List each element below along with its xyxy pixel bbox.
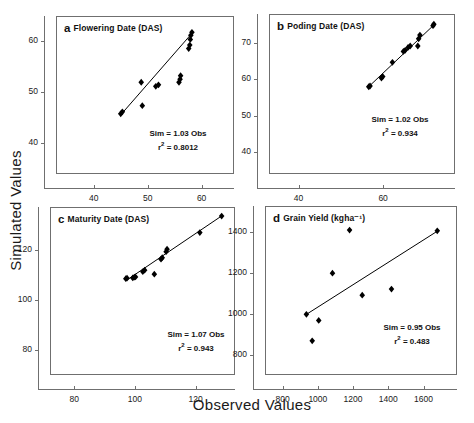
y-tick-label-d-3: 1400 — [211, 226, 247, 236]
y-tick-d-2 — [250, 273, 254, 274]
x-tick-d-1 — [318, 386, 319, 390]
annotation-r2-d: r2 = 0.483 — [367, 333, 457, 347]
x-tick-d-2 — [353, 386, 354, 390]
panel-title-d: dGrain Yield (kgha⁻¹) — [273, 212, 365, 224]
panel-d: dGrain Yield (kgha⁻¹)8001000120014008001… — [0, 0, 474, 423]
x-tick-label-d-3: 1400 — [368, 394, 408, 404]
y-tick-label-d-1: 1000 — [211, 308, 247, 318]
figure-scatter-panels: Simulated Values Observed Values aFlower… — [0, 0, 474, 423]
x-tick-label-d-2: 1200 — [333, 394, 373, 404]
y-tick-d-1 — [250, 314, 254, 315]
y-tick-d-3 — [250, 232, 254, 233]
x-tick-label-d-4: 1600 — [404, 394, 444, 404]
panel-letter-d: d — [273, 212, 280, 224]
y-axis-line-d — [253, 206, 254, 389]
x-tick-d-4 — [424, 386, 425, 390]
annotation-d: Sim = 0.95 Obsr2 = 0.483 — [367, 322, 457, 347]
x-tick-d-0 — [283, 386, 284, 390]
y-tick-label-d-0: 800 — [211, 349, 247, 359]
x-tick-label-d-0: 800 — [263, 394, 303, 404]
plot-area-d — [265, 206, 457, 375]
y-tick-d-0 — [250, 355, 254, 356]
annotation-slope-d: Sim = 0.95 Obs — [367, 322, 457, 333]
x-tick-d-3 — [388, 386, 389, 390]
x-tick-label-d-1: 1000 — [298, 394, 338, 404]
panel-title-text-d: Grain Yield (kgha⁻¹) — [283, 213, 365, 223]
y-tick-label-d-2: 1200 — [211, 267, 247, 277]
